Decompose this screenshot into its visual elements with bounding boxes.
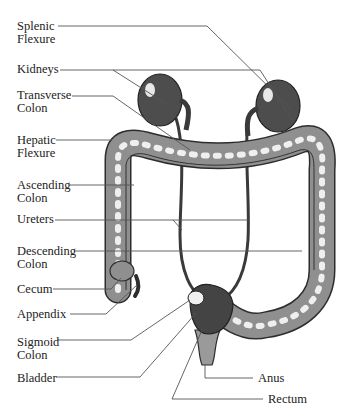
label-descending-colon: Descending Colon	[17, 245, 76, 271]
label-cecum: Cecum	[17, 283, 52, 296]
bladder-rectum	[188, 284, 233, 365]
leader-anus	[205, 364, 253, 378]
leader-bladder	[56, 313, 196, 377]
label-rectum: Rectum	[268, 393, 307, 406]
label-sigmoid-colon: Sigmoid Colon	[17, 336, 59, 362]
label-bladder: Bladder	[17, 372, 57, 385]
label-ascending-colon: Ascending Colon	[17, 179, 70, 205]
cecum-shape	[110, 261, 134, 281]
leader-lines	[53, 26, 302, 399]
label-ureters: Ureters	[17, 213, 54, 226]
label-kidneys: Kidneys	[17, 63, 59, 76]
label-transverse-colon: Transverse Colon	[17, 89, 71, 115]
label-splenic-flexure: Splenic Flexure	[17, 20, 55, 46]
label-appendix: Appendix	[17, 308, 66, 321]
label-hepatic-flexure: Hepatic Flexure	[17, 134, 56, 160]
leader-sigmoid-colon	[57, 300, 190, 340]
label-anus: Anus	[258, 372, 284, 385]
kidney-right	[247, 80, 300, 136]
rectum-shape	[195, 330, 220, 365]
